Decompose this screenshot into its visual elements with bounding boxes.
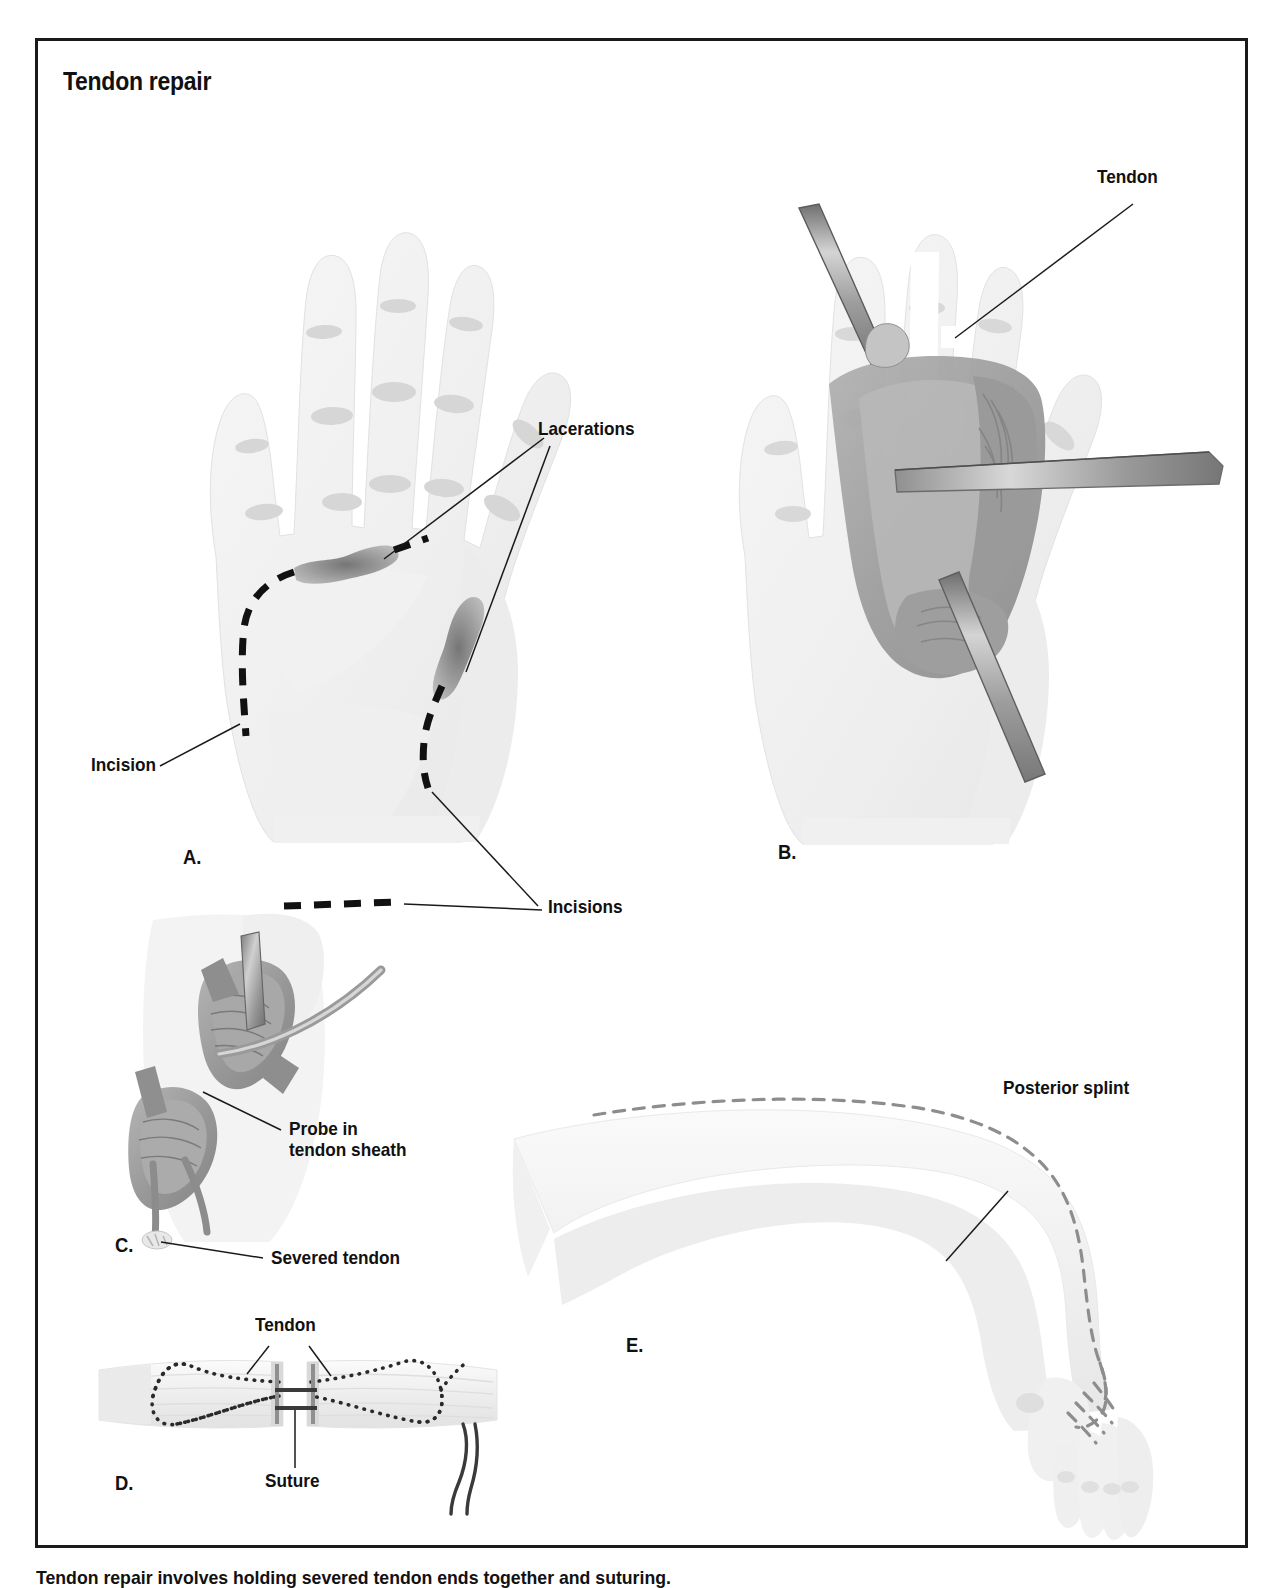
panel-c-illustration xyxy=(93,906,513,1266)
panel-letter-e: E. xyxy=(626,1334,643,1357)
annotation-lacerations: Lacerations xyxy=(538,418,635,439)
figure-frame: Tendon repair xyxy=(35,38,1248,1548)
panel-c: Probe in tendon sheath Severed tendon C. xyxy=(93,906,513,1266)
annotation-incisions: Incisions xyxy=(548,896,623,917)
annotation-suture-d: Suture xyxy=(265,1470,319,1491)
panel-letter-a: A. xyxy=(183,846,201,869)
panel-b: Tendon B. xyxy=(653,126,1233,846)
hand-flexed-e xyxy=(1016,1378,1153,1540)
annotation-tendon-b: Tendon xyxy=(1097,166,1158,187)
annotation-posterior-splint: Posterior splint xyxy=(1003,1077,1129,1098)
panel-letter-d: D. xyxy=(115,1472,133,1495)
forearm-hand-silhouette-e xyxy=(513,1110,1110,1431)
panel-a: Lacerations Incision Incisions A. xyxy=(98,116,658,846)
panel-e: Posterior splint E. xyxy=(498,1031,1238,1501)
panel-e-illustration xyxy=(498,1031,1238,1501)
annotation-severed-tendon: Severed tendon xyxy=(271,1247,400,1268)
panel-letter-c: C. xyxy=(115,1234,133,1257)
panel-d: Tendon Suture D. xyxy=(93,1296,513,1516)
panel-b-illustration xyxy=(653,126,1233,846)
panel-letter-b: B. xyxy=(778,841,796,864)
annotation-tendon-d: Tendon xyxy=(255,1314,316,1335)
figure-caption: Tendon repair involves holding severed t… xyxy=(36,1566,1133,1588)
annotation-incision: Incision xyxy=(44,754,156,775)
panel-a-illustration xyxy=(98,116,658,846)
annotation-probe-in-tendon-sheath: Probe in tendon sheath xyxy=(289,1118,407,1161)
leader-line-tendon-b xyxy=(955,204,1133,338)
figure-title: Tendon repair xyxy=(63,67,211,96)
tendon-marker-b xyxy=(941,326,963,348)
